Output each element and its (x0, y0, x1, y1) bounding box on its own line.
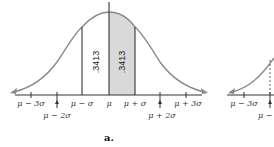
up-arrow-icon (268, 100, 272, 104)
label-mu-minus-2sigma: μ − 2σ (43, 111, 71, 120)
label-mu-plus-3sigma: μ + 3σ (174, 99, 202, 108)
figure-caption: a. (104, 132, 114, 143)
region-value-left: .3413 (91, 51, 101, 74)
label-mu-minus-3sigma: μ − 3σ (17, 99, 45, 108)
normal-curve-diagram: .3413 .3413 μ − 3σ μ − σ μ μ + σ μ + 3σ … (0, 0, 274, 147)
region-value-right: .3413 (117, 51, 127, 74)
right-arrowhead-icon (201, 88, 208, 94)
label-mu-minus-sigma: μ − σ (71, 99, 94, 108)
up-arrow-icon (55, 100, 59, 104)
left-arrowhead-icon (10, 88, 17, 94)
second-curve (232, 58, 274, 92)
label-mu: μ (106, 99, 111, 108)
second-left-arrowhead-icon (228, 88, 235, 94)
label-mu-plus-2sigma: μ + 2σ (148, 111, 176, 120)
second-label-mu-minus: μ − (258, 111, 272, 120)
label-mu-plus-sigma: μ + σ (124, 99, 147, 108)
up-arrow-icon (158, 100, 162, 104)
second-label-mu-minus-3sigma: μ − 3σ (230, 99, 258, 108)
